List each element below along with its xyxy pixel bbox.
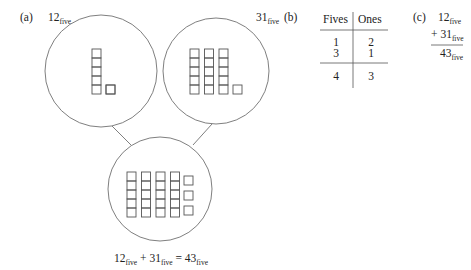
five-block-cell	[190, 49, 199, 58]
five-block-cell	[92, 49, 101, 58]
unit-block	[106, 85, 115, 94]
table-total-fives: 4	[326, 70, 346, 82]
five-block-cell	[171, 199, 180, 208]
addend-2: + 31five	[431, 28, 464, 40]
unit-block	[184, 191, 193, 200]
connector-left	[112, 126, 131, 145]
table-cell-ones-2: 1	[361, 47, 381, 59]
five-block-cell	[190, 76, 199, 85]
table-header-fives: Fives	[323, 13, 348, 25]
five-block-cell	[142, 181, 151, 190]
unit-block	[106, 85, 115, 94]
base-five-blocks-figure	[0, 0, 471, 270]
table-total-ones: 3	[361, 70, 381, 82]
five-block-cell	[205, 76, 214, 85]
five-block-cell	[219, 76, 228, 85]
table-header-ones: Ones	[358, 13, 382, 25]
left-circle-value: 12five	[48, 11, 71, 23]
five-block-cell	[205, 85, 214, 94]
five-block-cell	[92, 67, 101, 76]
five-block-cell	[127, 181, 136, 190]
five-block-cell	[219, 67, 228, 76]
five-block-cell	[92, 85, 101, 94]
panel-b-label: (b)	[284, 11, 297, 23]
five-block-cell	[156, 172, 165, 181]
five-block-cell	[156, 181, 165, 190]
five-block-cell	[142, 190, 151, 199]
equation: 12five + 31five = 43five	[114, 252, 208, 264]
right-circle-value: 31five	[256, 11, 279, 23]
five-block-cell	[127, 172, 136, 181]
five-block-cell	[92, 58, 101, 67]
five-block-cell	[171, 181, 180, 190]
panel-a-label: (a)	[20, 11, 33, 23]
five-block-cell	[142, 172, 151, 181]
five-block-cell	[171, 190, 180, 199]
five-block-cell	[205, 67, 214, 76]
five-block-cell	[127, 208, 136, 217]
five-block-cell	[142, 208, 151, 217]
connector-right	[193, 124, 212, 145]
addend-1: 12five	[438, 11, 461, 23]
five-block-cell	[219, 85, 228, 94]
five-block-cell	[156, 199, 165, 208]
bottom-circle	[108, 137, 212, 241]
five-block-cell	[171, 208, 180, 217]
five-block-cell	[156, 208, 165, 217]
five-block-cell	[205, 49, 214, 58]
five-block-cell	[219, 58, 228, 67]
table-cell-fives-2: 3	[326, 47, 346, 59]
five-block-cell	[205, 58, 214, 67]
right-circle	[163, 18, 269, 124]
unit-block	[233, 85, 242, 94]
five-block-cell	[156, 190, 165, 199]
five-block-cell	[190, 58, 199, 67]
five-block-cell	[190, 85, 199, 94]
five-block-cell	[219, 49, 228, 58]
addition-sum: 43five	[440, 47, 463, 59]
five-block-cell	[127, 199, 136, 208]
panel-c-label: (c)	[413, 11, 426, 23]
five-block-cell	[127, 190, 136, 199]
five-block-cell	[190, 67, 199, 76]
five-block-cell	[142, 199, 151, 208]
unit-block	[184, 176, 193, 185]
unit-block	[184, 206, 193, 215]
five-block-cell	[171, 172, 180, 181]
five-block-cell	[92, 76, 101, 85]
